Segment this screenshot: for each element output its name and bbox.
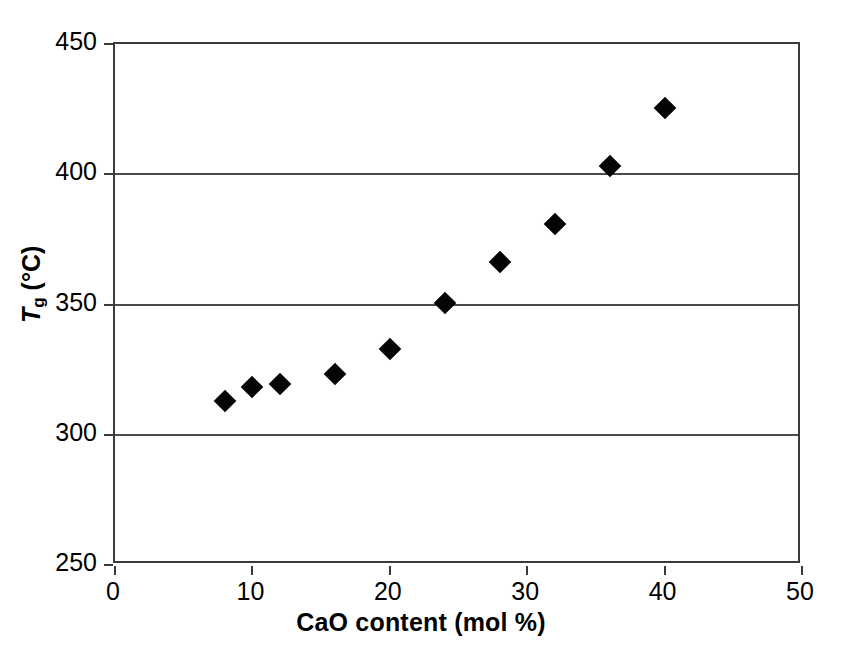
x-tick-30 bbox=[526, 566, 528, 575]
y-tick-label-350: 350 bbox=[9, 290, 97, 315]
data-point bbox=[324, 362, 347, 385]
x-tick-40 bbox=[664, 566, 666, 575]
gridline-y-400 bbox=[115, 173, 798, 175]
x-tick-label-20: 20 bbox=[348, 579, 428, 604]
x-tick-10 bbox=[251, 566, 253, 575]
data-point bbox=[378, 337, 401, 360]
y-tick-350 bbox=[104, 304, 113, 306]
y-tick-450 bbox=[104, 43, 113, 45]
figure-canvas: CaO content (mol %) Tg (°C) 250300350400… bbox=[0, 0, 842, 654]
y-tick-300 bbox=[104, 434, 113, 436]
data-point bbox=[241, 375, 264, 398]
gridline-y-300 bbox=[115, 434, 798, 436]
x-tick-0 bbox=[114, 566, 116, 575]
data-point bbox=[653, 96, 676, 119]
data-point bbox=[543, 212, 566, 235]
y-tick-250 bbox=[104, 564, 113, 566]
x-axis-label: CaO content (mol %) bbox=[0, 608, 842, 637]
x-tick-20 bbox=[389, 566, 391, 575]
y-tick-400 bbox=[104, 173, 113, 175]
x-tick-label-0: 0 bbox=[73, 579, 153, 604]
y-axis-label: Tg (°C) bbox=[17, 204, 50, 364]
y-tick-label-300: 300 bbox=[9, 420, 97, 445]
y-tick-label-450: 450 bbox=[9, 29, 97, 54]
data-point bbox=[269, 373, 292, 396]
data-point bbox=[214, 390, 237, 413]
x-tick-50 bbox=[801, 566, 803, 575]
x-tick-label-40: 40 bbox=[623, 579, 703, 604]
data-point bbox=[433, 292, 456, 315]
x-tick-label-10: 10 bbox=[210, 579, 290, 604]
gridline-y-350 bbox=[115, 304, 798, 306]
x-tick-label-50: 50 bbox=[760, 579, 840, 604]
plot-area bbox=[113, 42, 800, 563]
data-point bbox=[488, 250, 511, 273]
y-tick-label-400: 400 bbox=[9, 159, 97, 184]
y-tick-label-250: 250 bbox=[9, 550, 97, 575]
y-axis-units: (°C) bbox=[17, 246, 45, 291]
x-tick-label-30: 30 bbox=[485, 579, 565, 604]
